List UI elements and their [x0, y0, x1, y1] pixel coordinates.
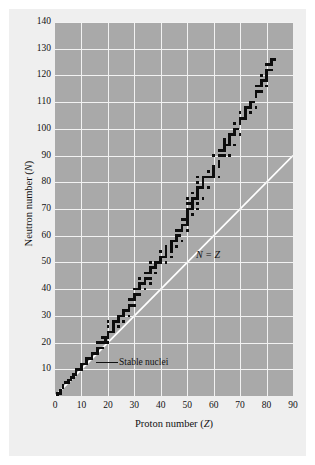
y-axis-tick-label: 120	[37, 70, 51, 79]
gridline-horizontal	[55, 102, 293, 103]
data-point-marker	[170, 256, 173, 259]
y-axis-tick-label: 50	[42, 257, 52, 266]
data-point-marker	[70, 379, 73, 382]
data-point-marker	[239, 119, 242, 122]
data-point-marker	[67, 381, 70, 384]
x-axis-tick-label: 0	[43, 400, 67, 410]
data-point-marker	[175, 245, 178, 248]
data-point-marker	[170, 248, 173, 251]
data-point-marker	[91, 355, 94, 358]
y-axis-tick-label: 40	[42, 284, 52, 293]
data-point-marker	[239, 122, 242, 125]
data-point-marker	[249, 111, 252, 114]
data-point-marker	[165, 253, 168, 256]
data-point-marker	[223, 146, 226, 149]
y-axis-tick-label: 110	[37, 97, 51, 106]
gridline-horizontal	[55, 369, 293, 370]
plot-area	[55, 22, 293, 396]
stable-nuclei-annotation: Stable nuclei	[119, 357, 168, 367]
data-point-marker	[244, 111, 247, 114]
data-point-marker	[138, 285, 141, 288]
data-point-marker	[244, 117, 247, 120]
data-point-marker	[154, 272, 157, 275]
data-point-marker	[207, 170, 210, 173]
data-point-marker	[196, 202, 199, 205]
x-axis-tick-label: 80	[255, 400, 279, 410]
y-axis-tick-label: 90	[42, 151, 52, 160]
data-point-marker	[202, 184, 205, 187]
data-point-marker	[186, 216, 189, 219]
data-point-marker	[196, 192, 199, 195]
data-point-marker	[122, 312, 125, 315]
data-point-marker	[138, 277, 141, 280]
data-point-marker	[186, 224, 189, 227]
data-point-marker	[218, 165, 221, 168]
x-axis-tick-label: 10	[69, 400, 93, 410]
data-point-marker	[270, 61, 273, 64]
gridline-horizontal	[55, 316, 293, 317]
x-axis-tick-label: 30	[122, 400, 146, 410]
data-point-marker	[212, 173, 215, 176]
data-point-marker	[265, 79, 268, 82]
data-point-marker	[96, 349, 99, 352]
data-point-marker	[165, 261, 168, 264]
data-point-marker	[212, 168, 215, 171]
data-point-marker	[112, 323, 115, 326]
data-point-marker	[223, 149, 226, 152]
data-point-marker	[117, 320, 120, 323]
data-point-marker	[196, 197, 199, 200]
data-point-marker	[154, 266, 157, 269]
gridline-horizontal	[55, 75, 293, 76]
data-point-marker	[191, 192, 194, 195]
data-point-marker	[117, 317, 120, 320]
y-axis-tick-label: 100	[37, 124, 51, 133]
data-point-marker	[154, 264, 157, 267]
data-point-marker	[144, 288, 147, 291]
y-axis-tick-label: 80	[42, 177, 52, 186]
data-point-marker	[112, 328, 115, 331]
nz-line-annotation: N = Z	[196, 249, 220, 260]
data-point-marker	[62, 384, 65, 387]
data-point-marker	[175, 237, 178, 240]
data-point-marker	[159, 250, 162, 253]
data-point-marker	[181, 229, 184, 232]
data-point-marker	[273, 58, 276, 61]
gridline-horizontal	[55, 343, 293, 344]
data-point-marker	[233, 122, 236, 125]
data-point-marker	[270, 63, 273, 66]
data-point-marker	[202, 178, 205, 181]
data-point-marker	[196, 181, 199, 184]
data-point-marker	[196, 189, 199, 192]
data-point-marker	[223, 138, 226, 141]
x-axis-tick-label: 90	[281, 400, 305, 410]
data-point-marker	[228, 136, 231, 139]
gridline-horizontal	[55, 156, 293, 157]
data-point-marker	[165, 248, 168, 251]
data-point-marker	[233, 133, 236, 136]
data-point-marker	[212, 154, 215, 157]
gridline-horizontal	[55, 209, 293, 210]
data-point-marker	[122, 315, 125, 318]
x-axis-title-prefix: Proton number (	[135, 418, 204, 429]
data-point-marker	[181, 240, 184, 243]
data-point-marker	[80, 365, 83, 368]
data-point-marker	[255, 95, 258, 98]
y-axis-tick-label: 10	[42, 364, 52, 373]
data-point-marker	[223, 154, 226, 157]
data-point-marker	[165, 245, 168, 248]
y-axis-title: Neutron number (N)	[23, 114, 34, 294]
data-point-marker	[228, 141, 231, 144]
data-point-marker	[191, 208, 194, 211]
data-point-marker	[228, 138, 231, 141]
gridline-horizontal	[55, 182, 293, 183]
data-point-marker	[85, 363, 88, 366]
data-point-marker	[56, 395, 59, 396]
data-point-marker	[59, 392, 62, 395]
data-point-marker	[144, 282, 147, 285]
data-point-marker	[159, 258, 162, 261]
data-point-marker	[149, 272, 152, 275]
data-point-marker	[149, 269, 152, 272]
data-point-marker	[218, 162, 221, 165]
data-point-marker	[107, 336, 110, 339]
data-point-marker	[128, 309, 131, 312]
